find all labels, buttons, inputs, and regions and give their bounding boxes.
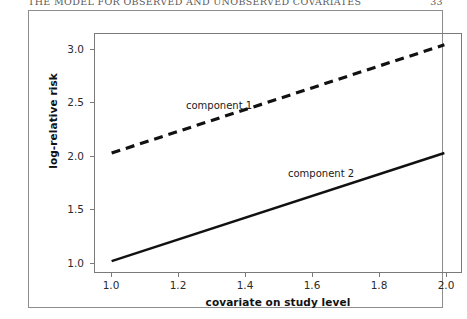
component-2-line: [112, 153, 445, 261]
x-tick-mark: [446, 273, 447, 277]
x-tick-label: 1.4: [225, 280, 265, 291]
y-tick-label: 1.5: [44, 204, 84, 215]
x-tick-label: 2.0: [426, 280, 466, 291]
x-tick-mark: [178, 273, 179, 277]
running-head-title: THE MODEL FOR OBSERVED AND UNOBSERVED CO…: [28, 0, 361, 7]
y-axis-label: log-relative risk: [47, 51, 59, 191]
x-tick-mark: [245, 273, 246, 277]
x-tick-label: 1.2: [158, 280, 198, 291]
x-tick-label: 1.0: [91, 280, 131, 291]
plot-area: [94, 33, 462, 273]
x-tick-mark: [111, 273, 112, 277]
component-1-line: [112, 45, 445, 153]
series-component-2: [112, 153, 445, 261]
x-tick-label: 1.8: [359, 280, 399, 291]
component-2-annotation: component 2: [288, 168, 354, 179]
x-axis-label: covariate on study level: [94, 296, 462, 308]
plot-svg: [95, 34, 461, 272]
figure-frame: 3.0 2.5 2.0 1.5 1.0 1.0 1.2 1.4 1.6 1.8 …: [28, 10, 443, 308]
page-running-head: THE MODEL FOR OBSERVED AND UNOBSERVED CO…: [0, 0, 467, 8]
y-tick-label: 1.0: [44, 258, 84, 269]
x-tick-label: 1.6: [292, 280, 332, 291]
running-head-page-number: 33: [430, 0, 443, 7]
series-component-1: [112, 45, 445, 153]
x-tick-mark: [379, 273, 380, 277]
component-1-annotation: component 1: [186, 100, 252, 111]
x-tick-mark: [312, 273, 313, 277]
